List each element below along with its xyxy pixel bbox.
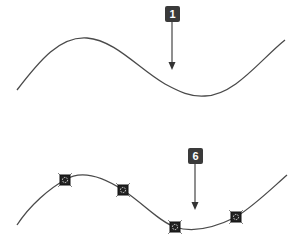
- curves-canvas: [0, 0, 300, 248]
- anchor-point-handle[interactable]: [229, 210, 243, 224]
- bottom-curve-path[interactable]: [17, 175, 287, 230]
- bottom-arrowhead-icon: [192, 202, 199, 210]
- step-badge-1: 1: [165, 6, 180, 22]
- anchor-point-handle[interactable]: [58, 173, 72, 187]
- anchor-point-handle[interactable]: [116, 183, 130, 197]
- step-badge-6: 6: [188, 148, 203, 164]
- anchor-point-handle[interactable]: [168, 220, 182, 234]
- top-curve-path[interactable]: [17, 38, 285, 96]
- top-arrowhead-icon: [169, 62, 176, 70]
- anchor-points: [58, 173, 243, 234]
